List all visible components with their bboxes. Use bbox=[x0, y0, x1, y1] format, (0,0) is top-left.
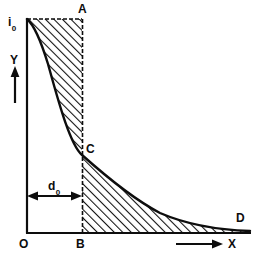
label-distance-base: d bbox=[48, 179, 56, 193]
x-axis-arrow bbox=[176, 239, 223, 248]
y-axis-arrow bbox=[11, 66, 20, 103]
label-origin: O bbox=[19, 238, 29, 250]
label-y-intercept-sub: 0 bbox=[12, 24, 17, 33]
figure-canvas bbox=[0, 0, 257, 259]
label-x-axis: X bbox=[228, 238, 236, 250]
label-y-axis: Y bbox=[10, 54, 18, 66]
label-distance-d0: d0 bbox=[48, 180, 60, 195]
label-y-intercept: i0 bbox=[8, 16, 16, 31]
label-point-c: C bbox=[86, 143, 95, 155]
label-point-d: D bbox=[236, 212, 245, 224]
hatched-region-lower bbox=[78, 148, 256, 240]
label-distance-sub: 0 bbox=[56, 188, 61, 197]
label-point-a: A bbox=[78, 3, 87, 15]
exponential-decay-figure: i0 A C O B D Y X d0 bbox=[0, 0, 257, 259]
label-point-b: B bbox=[76, 238, 85, 250]
